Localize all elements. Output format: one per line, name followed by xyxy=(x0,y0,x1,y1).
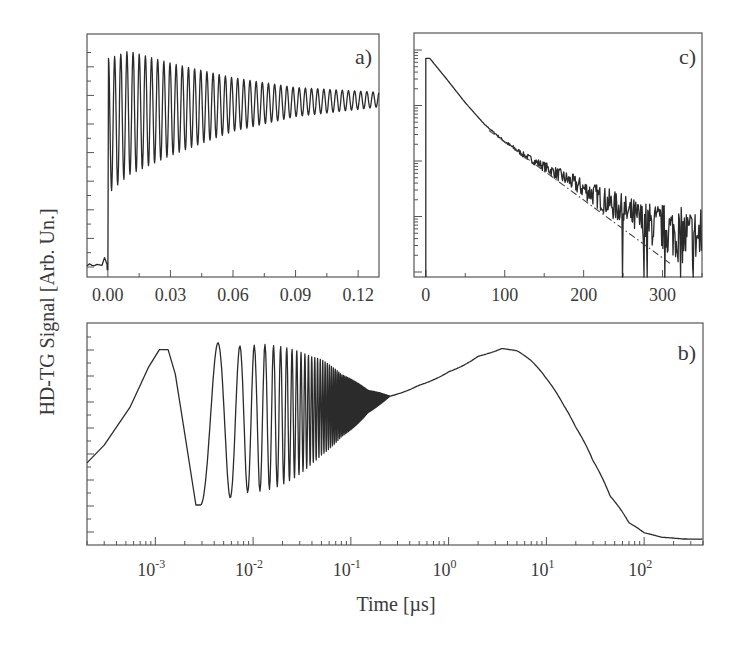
x-tick-label: 0.09 xyxy=(280,285,312,305)
y-axis-label: HD-TG Signal [Arb. Un.] xyxy=(36,208,59,415)
x-tick-label: 102 xyxy=(628,557,652,580)
panel-a: 0.000.030.060.090.12 a) xyxy=(87,34,379,305)
panel-c: 0100200300 c) xyxy=(414,33,702,305)
panel-b: 10-310-210-1100101102 b) xyxy=(87,323,703,580)
x-tick-label: 300 xyxy=(649,285,676,305)
panel-a-x-ticks: 0.000.030.060.090.12 xyxy=(92,270,374,305)
panel-b-x-ticks: 10-310-210-1100101102 xyxy=(87,537,703,580)
panel-c-x-ticks: 0100200300 xyxy=(421,270,702,305)
x-tick-label: 100 xyxy=(433,557,457,580)
x-tick-label: 0.12 xyxy=(342,285,374,305)
panel-b-frame xyxy=(87,323,703,545)
x-axis-label: Time [µs] xyxy=(356,593,435,616)
panel-a-label: a) xyxy=(355,44,372,69)
x-tick-label: 0 xyxy=(421,285,430,305)
panel-c-frame xyxy=(414,33,702,277)
x-tick-label: 200 xyxy=(570,285,597,305)
x-tick-label: 101 xyxy=(530,557,554,580)
panel-c-fit-line xyxy=(489,131,670,264)
panel-b-signal-curve xyxy=(87,343,703,539)
panel-b-label: b) xyxy=(678,340,696,365)
x-tick-label: 0.06 xyxy=(217,285,249,305)
panel-a-y-ticks xyxy=(87,53,94,268)
panel-c-decay-curve xyxy=(426,58,702,277)
x-tick-label: 10-3 xyxy=(137,557,165,580)
x-tick-label: 10-1 xyxy=(333,557,361,580)
x-tick-label: 10-2 xyxy=(235,557,263,580)
figure: 0.000.030.060.090.12 a) 0100200300 c) 10… xyxy=(0,0,742,647)
panel-c-y-ticks xyxy=(414,50,422,272)
panel-c-label: c) xyxy=(679,44,696,69)
x-tick-label: 100 xyxy=(491,285,518,305)
panel-a-signal-curve xyxy=(87,52,379,270)
panel-b-y-ticks xyxy=(87,337,94,532)
x-tick-label: 0.03 xyxy=(155,285,187,305)
x-tick-label: 0.00 xyxy=(92,285,124,305)
